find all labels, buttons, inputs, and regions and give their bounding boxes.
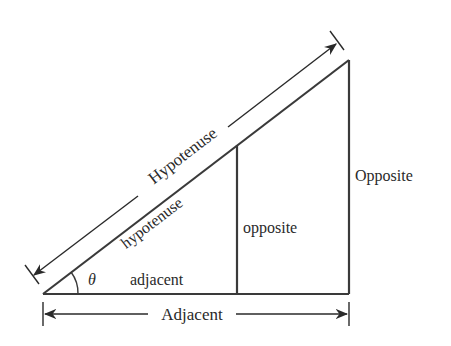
large-adjacent-label: Adjacent — [161, 305, 223, 324]
large-hypotenuse-line — [43, 60, 349, 294]
small-opposite-label: opposite — [243, 219, 297, 237]
angle-arc — [71, 272, 78, 294]
large-triangle — [43, 60, 349, 294]
large-hypotenuse-label: Hypotenuse — [145, 123, 221, 187]
hypotenuse-arrow-upper — [228, 44, 336, 127]
small-adjacent-label: adjacent — [130, 271, 184, 289]
triangle-diagram: Hypotenuse hypotenuse θ adjacent opposit… — [0, 0, 451, 346]
small-hypotenuse-label: hypotenuse — [118, 194, 187, 253]
angle-theta-label: θ — [88, 271, 96, 288]
large-opposite-label: Opposite — [355, 167, 413, 185]
hypotenuse-tick-left — [25, 265, 39, 284]
